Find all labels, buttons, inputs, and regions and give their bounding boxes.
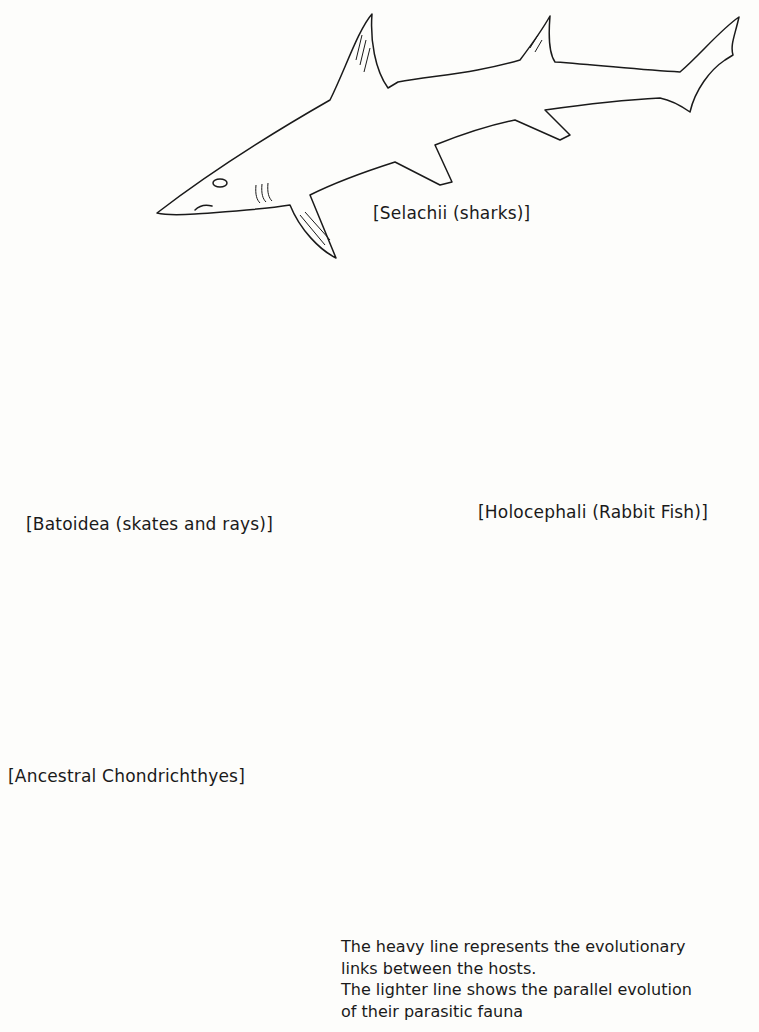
caption-line-3: The lighter line shows the parallel evol…: [341, 979, 692, 1001]
figure-caption: The heavy line represents the evolutiona…: [341, 936, 692, 1022]
ancestral-label: [Ancestral Chondrichthyes]: [8, 766, 245, 786]
caption-line-4: of their parasitic fauna: [341, 1001, 692, 1023]
holocephali-label: [Holocephali (Rabbit Fish)]: [478, 502, 708, 522]
caption-line-1: The heavy line represents the evolutiona…: [341, 936, 692, 958]
selachii-label: [Selachii (sharks)]: [373, 203, 530, 223]
batoidea-label: [Batoidea (skates and rays)]: [26, 514, 273, 534]
caption-line-2: links between the hosts.: [341, 958, 692, 980]
